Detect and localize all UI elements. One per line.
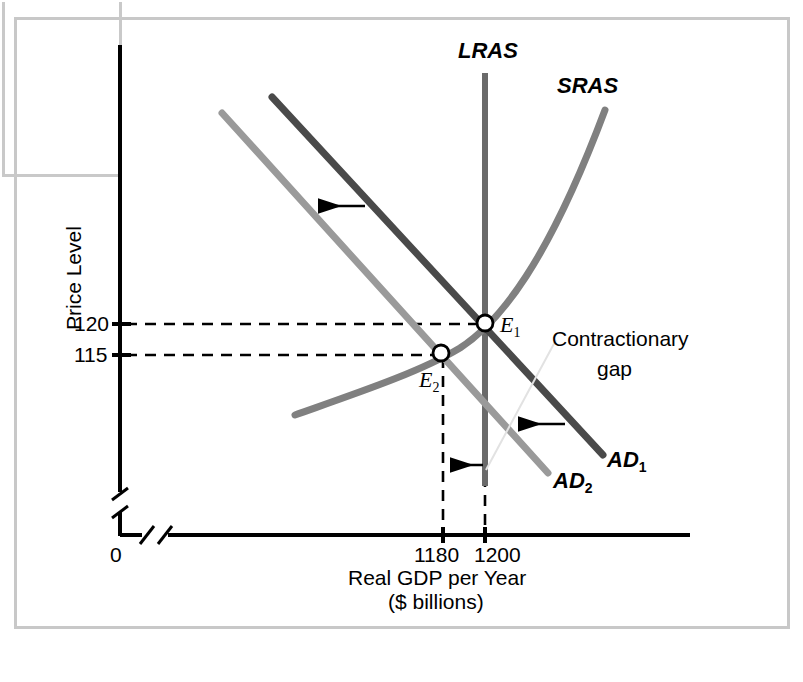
y-tick-label-120: 120 [74, 312, 109, 336]
equilibrium-point-e2 [433, 345, 449, 361]
curve-label-ad1-text: AD [607, 447, 639, 472]
x-axis-title-units: ($ billions) [388, 590, 484, 614]
y-tick-label-115: 115 [74, 343, 107, 367]
equilibrium-point-e1 [477, 315, 493, 331]
equilibrium-label-e2: E2 [419, 367, 439, 396]
curve-label-lras: LRAS [458, 38, 518, 64]
annotation-leader-line [486, 340, 556, 470]
x-tick-label-1180: 1180 [414, 543, 459, 567]
equilibrium-label-e1-text: E [500, 312, 513, 337]
curve-ad1 [272, 97, 603, 455]
figure-stage: Price Level 120 115 0 1180 1200 Real GDP… [0, 0, 803, 682]
equilibrium-label-e1: E1 [500, 312, 520, 341]
curve-label-ad2: AD2 [553, 468, 593, 496]
curve-label-ad1-subscript: 1 [639, 459, 647, 475]
equilibrium-label-e1-subscript: 1 [513, 325, 520, 340]
curve-label-ad1: AD1 [607, 447, 647, 475]
x-axis-break-mark-left [140, 526, 154, 544]
curve-label-sras: SRAS [557, 73, 618, 99]
equilibrium-label-e2-text: E [419, 367, 432, 392]
annotation-gap: gap [597, 357, 632, 381]
x-tick-label-1200: 1200 [474, 543, 521, 567]
curve-label-ad2-text: AD [553, 468, 585, 493]
curve-ad2 [222, 113, 548, 473]
equilibrium-label-e2-subscript: 2 [432, 380, 439, 395]
annotation-contractionary: Contractionary [552, 327, 689, 351]
x-axis-title-primary: Real GDP per Year [348, 566, 526, 590]
curve-label-ad2-subscript: 2 [585, 480, 593, 496]
origin-label: 0 [110, 543, 122, 567]
